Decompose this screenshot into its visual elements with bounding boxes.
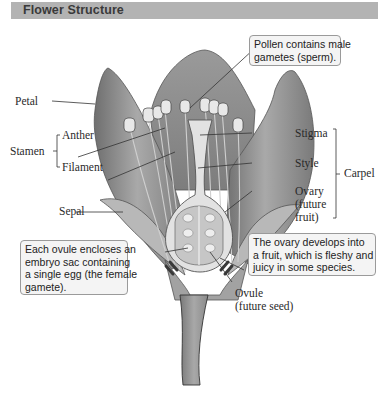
- label-stigma: Stigma: [295, 127, 328, 140]
- label-ovary-line3: fruit): [295, 211, 319, 224]
- label-style: Style: [295, 157, 319, 170]
- label-carpel: Carpel: [344, 167, 375, 180]
- label-sepal: Sepal: [59, 205, 85, 218]
- callout-ovary: The ovary develops into a fruit, which i…: [248, 233, 376, 276]
- label-ovary-line1: Ovary: [295, 185, 324, 198]
- stem: [180, 295, 208, 385]
- label-filament: Filament: [62, 161, 103, 174]
- label-ovary-line2: (future: [295, 198, 326, 211]
- label-ovule-line2: (future seed): [235, 300, 293, 313]
- callout-pollen: Pollen contains male gametes (sperm).: [249, 35, 341, 66]
- label-stamen: Stamen: [10, 145, 45, 158]
- label-anther: Anther: [62, 129, 94, 142]
- callout-ovule: Each ovule encloses an embryo sac contai…: [20, 240, 128, 295]
- label-ovule-line1: Ovule: [235, 287, 263, 300]
- label-petal: Petal: [15, 95, 38, 108]
